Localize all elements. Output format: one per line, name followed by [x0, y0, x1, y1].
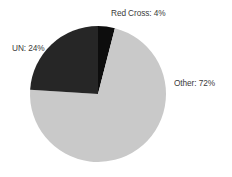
- pie-chart-figure: Red Cross: 4% UN: 24% Other: 72%: [0, 0, 232, 177]
- slice-label-red-cross: Red Cross: 4%: [111, 8, 165, 19]
- slice-label-other: Other: 72%: [174, 78, 215, 89]
- pie-slice-un: [30, 26, 98, 94]
- pie-slices-group: [30, 26, 166, 162]
- slice-label-un: UN: 24%: [12, 43, 45, 54]
